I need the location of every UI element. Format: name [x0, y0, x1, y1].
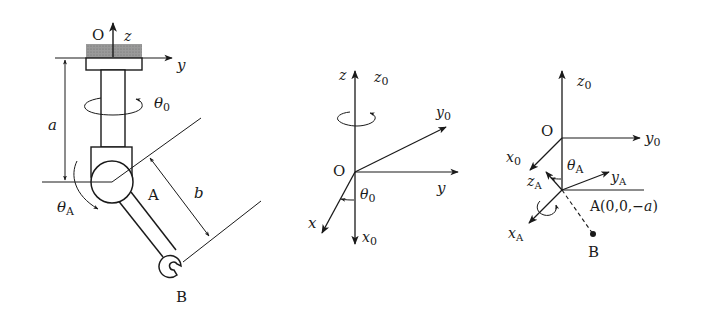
figure-left-robot-arm: O z y θ0 a b A θA B: [42, 23, 261, 306]
point-A-coordinates: A(0,0,−a): [589, 198, 658, 214]
origin-label: O: [92, 26, 104, 44]
yA-label: yA: [610, 169, 627, 187]
rotation-arrow-xA: [537, 201, 556, 215]
dimension-b-label: b: [194, 184, 204, 202]
yA-axis-arrow: [562, 172, 609, 190]
diagram-canvas: O z y θ0 a b A θA B z z0 y0 O y θ0 x x0: [0, 0, 702, 316]
upper-link: [101, 70, 125, 147]
dimension-a-label: a: [48, 116, 57, 134]
zA-label: zA: [526, 173, 542, 191]
figure-middle-base-frame: z z0 y0 O y θ0 x x0: [308, 67, 458, 248]
theta0-label: θ0: [360, 186, 375, 205]
extension-line-lower: [183, 201, 261, 262]
y0-axis-arrow: [355, 127, 446, 172]
lower-link: [117, 192, 176, 257]
y0-label: y0: [644, 129, 660, 149]
x-axis-arrow: [322, 172, 355, 233]
zA-axis-arrow: [546, 172, 562, 190]
link-AB-dashed: [562, 190, 593, 234]
z-axis-label: z: [123, 28, 132, 44]
theta0-label: θ0: [154, 94, 170, 114]
x-label: x: [308, 214, 317, 232]
xA-axis-arrow: [529, 190, 562, 223]
end-B-label: B: [176, 288, 187, 306]
x0-label: x0: [362, 229, 377, 248]
figure-right-joint-frame: z0 O y0 x0 θA zA yA A(0,0,−a) xA B: [506, 71, 660, 261]
mount-block: [86, 44, 142, 57]
z-label: z: [338, 67, 347, 83]
y-label: y: [436, 179, 446, 197]
z0-label: z0: [576, 73, 591, 92]
thetaA-label: θA: [57, 198, 75, 218]
theta0-arc: [341, 199, 354, 200]
z0-label: z0: [373, 69, 388, 88]
joint-A-label: A: [147, 186, 159, 204]
gripper-B: [159, 256, 181, 278]
thetaA-label: θA: [567, 157, 584, 176]
point-B: [590, 231, 596, 237]
origin-label: O: [541, 122, 553, 140]
y-axis-label: y: [176, 56, 186, 74]
base-plate: [86, 58, 142, 70]
rotation-arrow: [338, 112, 376, 126]
point-B-label: B: [588, 243, 599, 261]
x0-axis-arrow: [530, 138, 562, 170]
x0-label: x0: [506, 149, 521, 168]
y0-label: y0: [435, 104, 451, 123]
xA-label: xA: [508, 225, 524, 243]
origin-label: O: [333, 162, 345, 180]
